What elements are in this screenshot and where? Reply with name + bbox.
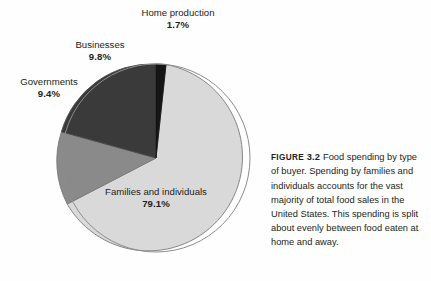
pie-label-governments-value: 9.4%: [2, 88, 96, 99]
pie-label-families-and-individuals-value: 79.1%: [101, 198, 211, 209]
pie-label-governments: Governments 9.4%: [2, 76, 96, 100]
figure-number: 3.2: [307, 152, 323, 162]
pie-label-businesses: Businesses 9.8%: [55, 39, 145, 63]
pie-chart: Home production 1.7% Businesses 9.8% Gov…: [0, 0, 270, 281]
pie-label-families-and-individuals-name: Families and individuals: [101, 186, 211, 197]
pie-label-families-and-individuals: Families and individuals 79.1%: [101, 186, 211, 210]
figure-caption: FIGURE 3.2 Food spending by type of buye…: [271, 150, 423, 249]
pie-label-home-production-value: 1.7%: [128, 19, 228, 30]
pie-label-governments-name: Governments: [2, 76, 96, 87]
pie-label-businesses-name: Businesses: [55, 39, 145, 50]
figure-container: Home production 1.7% Businesses 9.8% Gov…: [0, 0, 431, 281]
pie-label-home-production: Home production 1.7%: [128, 7, 228, 31]
figure-caption-text: Food spending by type of buyer. Spending…: [271, 152, 418, 247]
figure-tag: FIGURE: [271, 153, 307, 162]
pie-label-businesses-value: 9.8%: [55, 51, 145, 62]
pie-label-home-production-name: Home production: [128, 7, 228, 18]
